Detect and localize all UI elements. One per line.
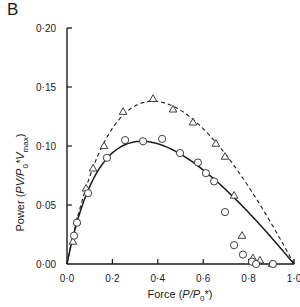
x-tick-label: 0·4: [151, 273, 166, 284]
triangle-marker: [89, 164, 97, 171]
y-tick-label: 0·15: [36, 82, 56, 93]
circle-marker: [202, 170, 209, 177]
y-axis-label: Power (PV/P0*Vmax): [14, 103, 29, 263]
axes: 0·000·050·100·150·200·00·20·40·60·81·0: [36, 23, 300, 284]
x-tick-label: 0·0: [60, 273, 75, 284]
power-force-chart: 0·000·050·100·150·200·00·20·40·60·81·0: [0, 0, 300, 307]
circle-marker: [269, 260, 276, 267]
data-markers: [69, 95, 276, 268]
y-tick-label: 0·05: [36, 200, 56, 211]
y-tick-label: 0·00: [36, 259, 56, 270]
fit-curves: [67, 101, 294, 264]
y-tick-label: 0·10: [36, 141, 56, 152]
circle-marker: [252, 260, 259, 267]
triangle-marker: [149, 95, 157, 102]
circle-marker: [73, 219, 80, 226]
circle-marker: [221, 208, 228, 215]
x-tick-label: 0·8: [241, 273, 256, 284]
circle-marker: [159, 135, 166, 142]
dashed-fit-curve: [67, 101, 294, 264]
solid-fit-curve: [67, 141, 294, 264]
circle-marker: [194, 159, 201, 166]
circle-marker: [85, 190, 92, 197]
circle-marker: [230, 242, 237, 249]
triangle-marker: [100, 142, 108, 149]
triangle-marker: [189, 118, 197, 125]
panel-label: B: [7, 0, 18, 20]
circle-marker: [139, 138, 146, 145]
circle-marker: [103, 154, 110, 161]
circle-marker: [70, 232, 77, 239]
circle-marker: [176, 149, 183, 156]
circle-marker: [239, 251, 246, 258]
triangle-marker: [169, 105, 177, 112]
circle-marker: [210, 178, 217, 185]
triangle-marker: [238, 232, 246, 239]
circle-marker: [122, 137, 129, 144]
x-tick-label: 0·6: [196, 273, 211, 284]
x-tick-label: 1·0: [287, 273, 300, 284]
x-tick-label: 0·2: [105, 273, 120, 284]
x-axis-label: Force (P/P0*): [100, 288, 260, 303]
triangle-marker: [221, 153, 229, 160]
y-tick-label: 0·20: [36, 23, 56, 34]
triangle-marker: [212, 140, 220, 147]
triangle-marker: [119, 108, 127, 115]
